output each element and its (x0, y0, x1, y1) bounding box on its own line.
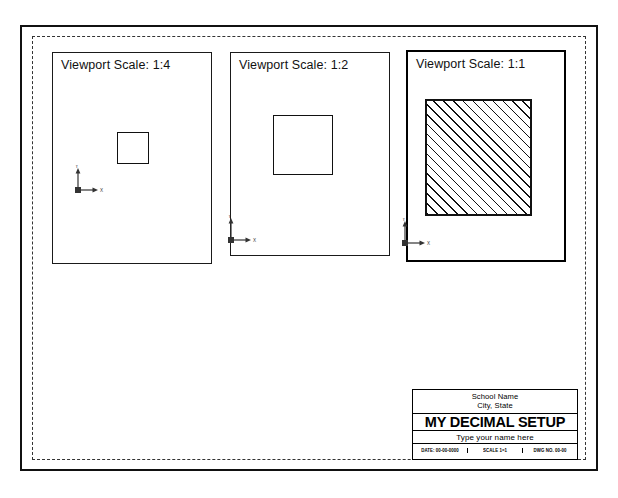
date-field[interactable]: DATE: 00-00-0000 (413, 448, 468, 453)
viewport-2[interactable]: Viewport Scale: 1:2 Y X (230, 52, 390, 256)
scale-field[interactable]: SCALE 1=1 (468, 448, 523, 453)
viewport-3-hatched-square (425, 99, 532, 216)
svg-text:X: X (427, 241, 430, 246)
dwg-no-field-label: DWG NO. 00-00 (534, 448, 567, 453)
svg-text:Y: Y (75, 165, 78, 169)
viewport-1-ucs-icon: Y X (73, 165, 107, 195)
viewport-2-ucs-icon: Y X (226, 215, 260, 245)
svg-text:X: X (253, 238, 256, 243)
title-block-school-row: School Name City, State (413, 390, 577, 414)
title-block-author-row[interactable]: Type your name here (413, 431, 577, 444)
viewport-2-scale-label: Viewport Scale: 1:2 (239, 58, 348, 72)
author-prompt: Type your name here (456, 433, 534, 442)
viewport-3-ucs-icon: Y X (400, 218, 434, 248)
city-state: City, State (477, 402, 513, 411)
title-block-drawing-title-row: MY DECIMAL SETUP (413, 414, 577, 431)
title-block-fields-row: DATE: 00-00-0000 SCALE 1=1 DWG NO. 00-00 (413, 444, 577, 457)
viewport-3[interactable]: Viewport Scale: 1:1 Y X (406, 50, 566, 262)
viewport-1[interactable]: Viewport Scale: 1:4 Y X (52, 52, 212, 264)
svg-text:Y: Y (402, 218, 405, 222)
drawing-title: MY DECIMAL SETUP (425, 414, 565, 430)
date-field-label: DATE: 00-00-0000 (421, 448, 459, 453)
title-block[interactable]: School Name City, State MY DECIMAL SETUP… (412, 389, 578, 460)
viewport-1-square (117, 132, 149, 164)
svg-text:X: X (100, 188, 103, 193)
viewport-3-scale-label: Viewport Scale: 1:1 (416, 57, 525, 71)
viewport-2-square (273, 115, 333, 175)
svg-text:Y: Y (228, 215, 231, 219)
viewport-1-scale-label: Viewport Scale: 1:4 (61, 58, 170, 72)
drawing-sheet: Viewport Scale: 1:4 Y X Viewport Scale: … (0, 0, 618, 498)
scale-field-label: SCALE 1=1 (483, 448, 507, 453)
dwg-no-field[interactable]: DWG NO. 00-00 (523, 448, 577, 453)
